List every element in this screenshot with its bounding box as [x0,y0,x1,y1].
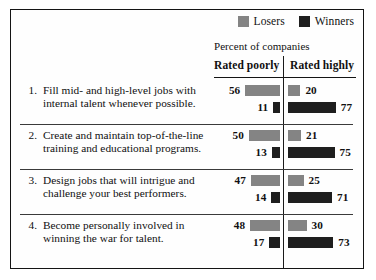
bar-line: 50 [210,129,280,141]
column-header-rated-highly: Rated highly [290,59,354,71]
bar-losers [245,85,280,96]
column-headers: Rated poorly Rated highly [214,59,356,76]
row-text: Design jobs that will intrigue and chall… [43,174,208,200]
legend-label-losers: Losers [254,16,285,27]
bar-line: 30 [288,219,358,231]
bar-value-losers: 25 [309,174,320,186]
bar-value-winners: 73 [338,236,349,248]
row-separator [20,214,353,215]
bar-value-winners: 77 [341,101,352,113]
chart-subtitle: Percent of companies [214,40,310,52]
bar-value-winners: 75 [340,146,351,158]
bar-line: 13 [210,146,280,158]
legend-swatch-losers [238,16,249,27]
bar-line: 25 [288,174,358,186]
bar-winners [272,147,280,158]
legend-entry-losers: Losers [238,16,285,27]
legend: Losers Winners [238,16,354,27]
bar-value-winners: 71 [337,191,348,203]
bar-losers [250,220,280,231]
legend-entry-winners: Winners [299,16,354,27]
bar-line: 48 [210,219,280,231]
bars-rated-highly: 2077 [288,84,358,118]
row-text: Become personally involved in winning th… [43,219,208,245]
row-text: Fill mid- and high-level jobs with inter… [43,84,208,110]
bar-line: 20 [288,84,358,96]
bar-losers [288,175,304,186]
bar-line: 47 [210,174,280,186]
bar-losers [288,130,301,141]
row-label: 4.Become personally involved in winning … [23,219,208,245]
bar-losers [249,130,280,141]
bars-rated-poorly: 5611 [210,84,280,118]
bars-rated-poorly: 4714 [210,174,280,208]
bar-line: 77 [288,101,358,113]
bar-line: 73 [288,236,358,248]
bar-line: 14 [210,191,280,203]
bar-winners [271,192,280,203]
bar-value-losers: 30 [312,219,323,231]
column-header-rated-poorly: Rated poorly [214,59,279,71]
row-text: Create and maintain top-of-the-line trai… [43,129,208,155]
bar-line: 21 [288,129,358,141]
row-label: 1.Fill mid- and high-level jobs with int… [23,84,208,110]
row-number: 2. [23,129,37,142]
figure-frame: Losers Winners Percent of companies Rate… [10,9,364,269]
bar-value-losers: 21 [306,129,317,141]
bar-winners [288,237,333,248]
legend-label-winners: Winners [315,16,354,27]
row-separator [20,124,353,125]
bars-rated-poorly: 4817 [210,219,280,253]
bar-value-winners: 13 [256,146,267,158]
table-row: 2.Create and maintain top-of-the-line tr… [12,124,362,169]
bar-value-losers: 47 [234,174,245,186]
bar-value-winners: 11 [257,101,268,113]
bar-line: 75 [288,146,358,158]
legend-swatch-winners [299,16,310,27]
bars-rated-highly: 2175 [288,129,358,163]
bar-winners [288,192,332,203]
bar-winners [269,237,280,248]
row-label: 2.Create and maintain top-of-the-line tr… [23,129,208,155]
bar-line: 11 [210,101,280,113]
bar-value-losers: 56 [229,84,240,96]
bars-rated-highly: 2571 [288,174,358,208]
table-row: 3.Design jobs that will intrigue and cha… [12,169,362,214]
bar-line: 17 [210,236,280,248]
bar-value-losers: 50 [233,129,244,141]
row-label: 3.Design jobs that will intrigue and cha… [23,174,208,200]
bar-line: 56 [210,84,280,96]
bar-winners [273,102,280,113]
bars-rated-poorly: 5013 [210,129,280,163]
row-number: 1. [23,84,37,97]
bar-value-losers: 20 [305,84,316,96]
bar-losers [288,85,300,96]
row-number: 3. [23,174,37,187]
bar-winners [288,102,336,113]
bars-rated-highly: 3073 [288,219,358,253]
row-separator [20,169,353,170]
bar-losers [288,220,307,231]
bar-value-losers: 48 [234,219,245,231]
bar-winners [288,147,335,158]
bar-losers [251,175,280,186]
bar-value-winners: 14 [255,191,266,203]
table-row: 4.Become personally involved in winning … [12,214,362,259]
table-row: 1.Fill mid- and high-level jobs with int… [12,79,362,124]
bar-value-winners: 17 [253,236,264,248]
bar-line: 71 [288,191,358,203]
row-number: 4. [23,219,37,232]
